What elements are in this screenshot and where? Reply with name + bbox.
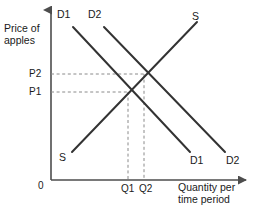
x-axis-title: Quantity per time period (178, 181, 256, 206)
demand-curve-d2 (104, 27, 225, 152)
curve-label-d2-top: D2 (88, 8, 101, 20)
curve-label-d1-top: D1 (57, 8, 70, 20)
supply-curve-s (72, 22, 197, 152)
x-tick-label-q2: Q2 (139, 183, 152, 195)
y-axis-title: Price of apples (4, 22, 50, 47)
y-tick-label-p2: P2 (29, 68, 41, 80)
supply-demand-figure: Price of apples Quantity per time period… (0, 0, 260, 208)
curve-label-d1-bottom: D1 (190, 154, 203, 166)
curve-label-s-bottom: S (59, 151, 66, 163)
curve-label-d2-bottom: D2 (226, 154, 239, 166)
origin-label: 0 (38, 180, 44, 192)
x-tick-label-q1: Q1 (121, 183, 134, 195)
curve-label-s-top: S (192, 10, 199, 22)
y-tick-label-p1: P1 (29, 86, 41, 98)
